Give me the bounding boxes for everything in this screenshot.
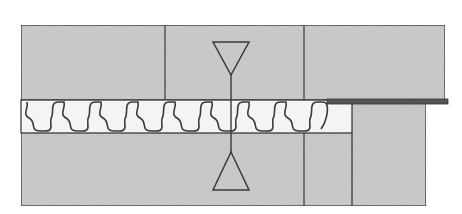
thin-plate <box>327 99 448 104</box>
wave-layer <box>21 100 352 133</box>
diagram-canvas <box>0 0 462 214</box>
top-block <box>21 25 445 100</box>
right-lower-block <box>352 103 426 206</box>
bottom-block <box>21 133 352 206</box>
cross-section-diagram <box>0 0 462 214</box>
